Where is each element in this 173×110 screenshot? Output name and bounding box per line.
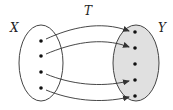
x-point-2 bbox=[39, 54, 43, 58]
x-point-1 bbox=[39, 39, 43, 43]
y-point-4 bbox=[133, 78, 137, 82]
label-y: Y bbox=[158, 21, 167, 35]
y-point-5 bbox=[133, 94, 137, 98]
mapping-diagram: X Y T bbox=[0, 0, 173, 110]
x-point-4 bbox=[39, 86, 43, 90]
label-t: T bbox=[84, 4, 93, 18]
arrow-x4-y5 bbox=[46, 90, 129, 101]
label-x: X bbox=[9, 21, 19, 35]
y-point-1 bbox=[133, 30, 137, 34]
x-point-3 bbox=[39, 70, 43, 74]
y-point-3 bbox=[133, 62, 137, 66]
y-point-2 bbox=[133, 46, 137, 50]
arrow-x1-y1 bbox=[46, 26, 129, 39]
